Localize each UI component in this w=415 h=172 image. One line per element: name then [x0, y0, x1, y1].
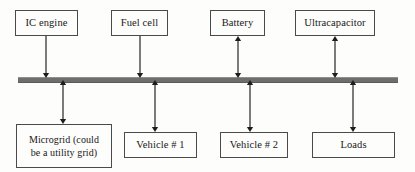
load-label-microgrid: Microgrid (could be a utility grid) — [29, 133, 99, 159]
source-box-fuel-cell[interactable]: Fuel cell — [111, 10, 168, 36]
source-label-fuel-cell: Fuel cell — [121, 17, 158, 30]
connector-ultracapacitor-to-bus — [329, 36, 341, 78]
load-box-vehicle-2[interactable]: Vehicle # 2 — [220, 132, 288, 158]
connector-bus-to-vehicle-2 — [244, 80, 256, 132]
source-label-ultracapacitor: Ultracapacitor — [304, 17, 365, 30]
connector-bus-to-vehicle-1 — [149, 80, 161, 132]
source-label-ic-engine: IC engine — [25, 17, 67, 30]
load-box-loads[interactable]: Loads — [312, 132, 395, 158]
source-box-ic-engine[interactable]: IC engine — [15, 10, 78, 36]
load-label-vehicle-1: Vehicle # 1 — [136, 139, 184, 152]
connector-bus-to-loads — [347, 80, 359, 132]
connector-bus-to-microgrid — [57, 80, 69, 124]
power-architecture-diagram: IC engineFuel cellBatteryUltracapacitorM… — [0, 0, 415, 172]
common-dc-bus — [18, 77, 398, 83]
load-label-vehicle-2: Vehicle # 2 — [230, 139, 278, 152]
load-label-loads: Loads — [340, 139, 366, 152]
connector-fuel-cell-to-bus — [134, 36, 146, 78]
source-box-ultracapacitor[interactable]: Ultracapacitor — [295, 10, 375, 36]
source-box-battery[interactable]: Battery — [210, 10, 265, 36]
source-label-battery: Battery — [222, 17, 254, 30]
connector-ic-engine-to-bus — [40, 36, 52, 78]
load-box-microgrid[interactable]: Microgrid (could be a utility grid) — [16, 124, 112, 168]
load-box-vehicle-1[interactable]: Vehicle # 1 — [124, 132, 197, 158]
connector-battery-to-bus — [232, 36, 244, 78]
